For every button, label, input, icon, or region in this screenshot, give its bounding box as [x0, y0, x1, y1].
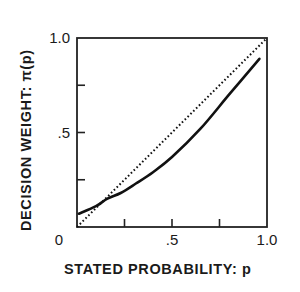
- x-axis-title: STATED PROBABILITY: p: [64, 261, 251, 277]
- y-tick-label: 1.0: [49, 29, 70, 46]
- plot-area: [77, 38, 267, 227]
- y-axis-title: DECISION WEIGHT: π(p): [18, 49, 34, 231]
- identity-dotted-line: [77, 38, 267, 227]
- x-tick-label: 0: [55, 231, 63, 248]
- x-tick-label: 1.0: [257, 231, 278, 248]
- y-tick-label: .5: [57, 124, 70, 141]
- y-tick-labels: .51.0: [49, 29, 70, 141]
- x-tick-labels: 0.51.0: [55, 231, 278, 248]
- decision-weight-chart: 0.51.0 .51.0 STATED PROBABILITY: p DECIS…: [0, 0, 300, 292]
- x-tick-label: .5: [166, 231, 179, 248]
